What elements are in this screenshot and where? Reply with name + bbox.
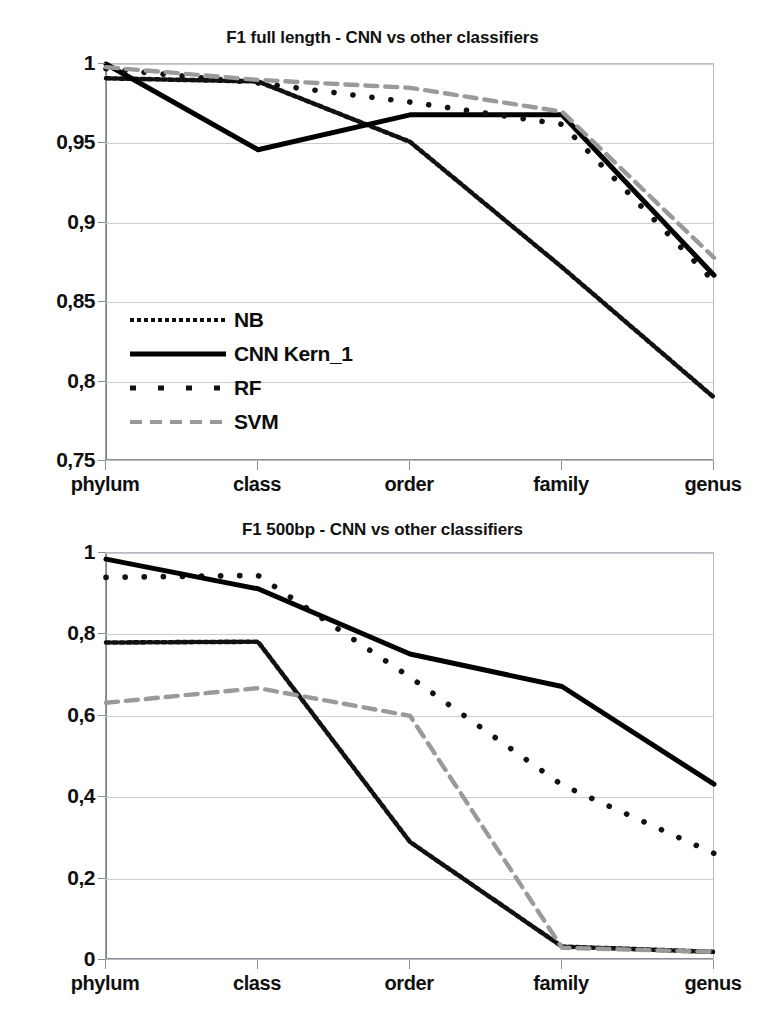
- legend-swatch-icon: [130, 413, 226, 431]
- x-axis-tick-mark: [409, 461, 410, 470]
- x-axis-tick-label: class: [233, 473, 281, 496]
- x-axis-tick-mark: [713, 960, 714, 969]
- series-line-rf: [106, 69, 714, 282]
- figure-page: F1 full length - CNN vs other classifier…: [0, 0, 765, 1012]
- x-axis-tick-label: genus: [685, 972, 742, 995]
- legend-swatch-icon: [130, 345, 226, 363]
- y-axis-tick-mark: [98, 715, 105, 716]
- x-axis-tick-mark: [257, 461, 258, 470]
- y-axis-tick-label: 0,8: [0, 621, 95, 645]
- y-axis-tick-mark: [98, 63, 105, 64]
- series-line-nb: [106, 642, 714, 952]
- plot-area-bottom: [105, 552, 714, 960]
- legend-label: RF: [234, 376, 261, 400]
- legend-label: NB: [234, 308, 264, 332]
- chart-panel-bottom: F1 500bp - CNN vs other classifiers 00,2…: [0, 506, 765, 1012]
- legend-swatch-icon: [130, 311, 226, 329]
- x-axis-tick-label: family: [533, 473, 588, 496]
- x-axis-tick-mark: [257, 960, 258, 969]
- y-axis-tick-label: 0,4: [0, 784, 95, 808]
- y-axis-tick-label: 0,75: [0, 448, 95, 472]
- y-axis-tick-label: 1: [0, 540, 95, 564]
- x-axis-tick-mark: [561, 960, 562, 969]
- x-axis-tick-mark: [561, 461, 562, 470]
- x-axis-tick-mark: [713, 461, 714, 470]
- y-axis-tick-label: 1: [0, 51, 95, 75]
- y-axis-tick-label: 0: [0, 947, 95, 971]
- legend-item[interactable]: SVM: [130, 405, 353, 439]
- y-axis-tick-mark: [98, 301, 105, 302]
- series-line-svm: [106, 67, 714, 258]
- chart-legend: NBCNN Kern_1RFSVM: [130, 303, 353, 439]
- x-axis-tick-label: phylum: [71, 972, 140, 995]
- x-axis-tick-label: genus: [685, 473, 742, 496]
- y-axis-tick-mark: [98, 959, 105, 960]
- legend-item[interactable]: RF: [130, 371, 353, 405]
- chart-panel-top: F1 full length - CNN vs other classifier…: [0, 0, 765, 506]
- y-axis-tick-label: 0,8: [0, 369, 95, 393]
- x-axis-tick-mark: [105, 461, 106, 470]
- series-line-cnn-kern-1: [106, 559, 714, 784]
- legend-item[interactable]: NB: [130, 303, 353, 337]
- x-axis-tick-label: family: [533, 972, 588, 995]
- y-axis-tick-mark: [98, 142, 105, 143]
- legend-item[interactable]: CNN Kern_1: [130, 337, 353, 371]
- y-axis-tick-label: 0,6: [0, 703, 95, 727]
- y-axis-tick-mark: [98, 222, 105, 223]
- y-axis-tick-label: 0,9: [0, 210, 95, 234]
- y-axis-tick-mark: [98, 878, 105, 879]
- x-axis-tick-label: order: [384, 473, 433, 496]
- legend-label: SVM: [234, 410, 278, 434]
- y-axis-tick-label: 0,85: [0, 289, 95, 313]
- x-axis-tick-mark: [105, 960, 106, 969]
- x-axis-tick-label: order: [384, 972, 433, 995]
- y-axis-tick-label: 0,95: [0, 130, 95, 154]
- legend-label: CNN Kern_1: [234, 342, 353, 366]
- legend-swatch-icon: [130, 379, 226, 397]
- x-axis-tick-label: phylum: [71, 473, 140, 496]
- x-axis-tick-label: class: [233, 972, 281, 995]
- y-axis-tick-mark: [98, 552, 105, 553]
- chart-title-bottom: F1 500bp - CNN vs other classifiers: [0, 520, 765, 540]
- y-axis-tick-mark: [98, 381, 105, 382]
- y-axis-tick-mark: [98, 796, 105, 797]
- chart-title-top: F1 full length - CNN vs other classifier…: [0, 28, 765, 48]
- x-axis-tick-mark: [409, 960, 410, 969]
- series-layer: [106, 553, 715, 961]
- y-axis-tick-label: 0,2: [0, 866, 95, 890]
- y-axis-tick-mark: [98, 460, 105, 461]
- y-axis-tick-mark: [98, 633, 105, 634]
